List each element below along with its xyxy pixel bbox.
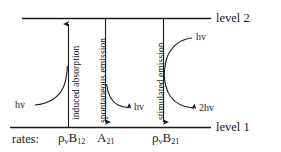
photon-in-absorption-curve (35, 66, 68, 105)
rate-coefficient-subscript: 21 (171, 137, 179, 146)
photon-in-stimulated-curve (164, 38, 192, 74)
rates-caption: rates: (12, 133, 39, 146)
rate-coefficient-subscript: 12 (77, 137, 85, 146)
photon-out-spontaneous-curve (107, 84, 130, 108)
induced-absorption-label: induced absorption (72, 46, 82, 120)
spontaneous-emission-label: spontaneous emission (99, 38, 109, 123)
rate-induced-absorption: ρvB12 (58, 131, 86, 146)
rate-coefficient: B (69, 130, 78, 145)
photon-out-stimulated-curve (164, 74, 194, 108)
rate-coefficient: B (163, 130, 172, 145)
photon-in-absorption-label: hv (15, 100, 25, 110)
level-1-label: level 1 (216, 121, 250, 134)
stimulated-emission-label: stimulated emission (157, 42, 167, 120)
energy-level-diagram: level 2 level 1 induced absorption spont… (0, 0, 281, 152)
rate-coefficient-subscript: 21 (106, 137, 114, 146)
rate-spontaneous-emission: A21 (97, 131, 115, 146)
level-2-label: level 2 (216, 12, 250, 25)
rate-coefficient: A (97, 130, 106, 145)
photon-in-stimulated-label: hv (196, 32, 206, 42)
photon-out-stimulated-label: 2hv (199, 103, 214, 113)
photon-out-spontaneous-label: hv (134, 102, 144, 112)
rate-stimulated-emission: ρvB21 (152, 131, 180, 146)
